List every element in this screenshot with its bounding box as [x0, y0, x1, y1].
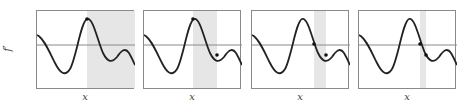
plot-panel-2 — [143, 10, 241, 89]
marked-point — [418, 42, 422, 46]
marked-point — [424, 53, 428, 57]
x-axis-label: x — [75, 91, 95, 102]
marked-point — [312, 42, 316, 46]
function-curve — [252, 11, 350, 90]
x-axis-label: x — [290, 91, 310, 102]
plot-panel-3 — [251, 10, 349, 89]
plot-panel-1 — [36, 10, 134, 89]
x-axis-label: x — [397, 91, 417, 102]
y-axis-label: f′ — [1, 45, 14, 52]
function-curve — [359, 11, 457, 90]
marked-point — [191, 17, 195, 21]
marked-point — [324, 53, 328, 57]
plot-panel-4 — [358, 10, 456, 89]
function-curve — [144, 11, 242, 90]
marked-point — [215, 53, 219, 57]
marked-point — [85, 17, 89, 21]
x-axis-label: x — [182, 91, 202, 102]
function-curve — [37, 11, 135, 90]
